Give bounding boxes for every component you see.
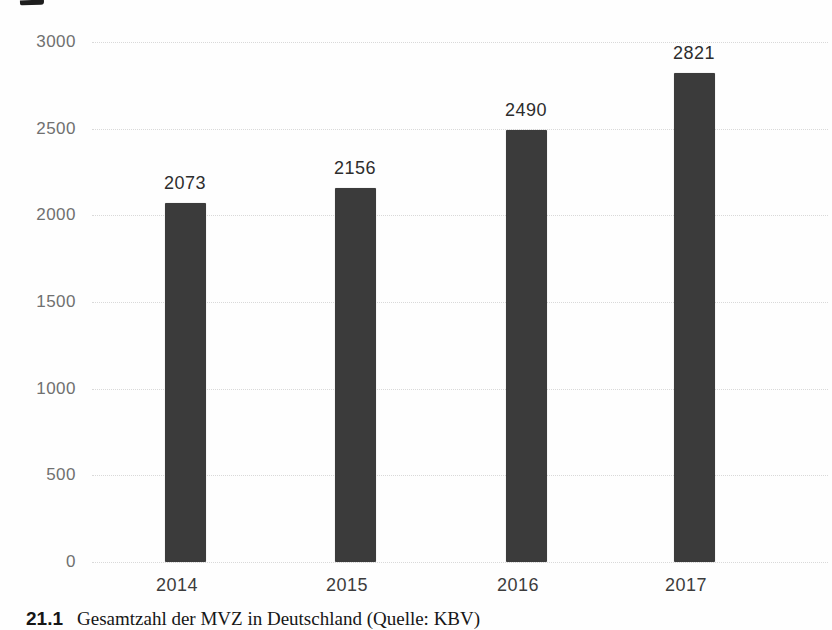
y-axis-tick-label: 2500: [24, 119, 76, 139]
figure-caption: 21.1Gesamtzahl der MVZ in Deutschland (Q…: [26, 608, 806, 630]
x-axis-label: 2017: [646, 575, 726, 596]
y-axis-tick-label: 500: [24, 465, 76, 485]
bar-value-label: 2073: [145, 173, 225, 194]
scanned-page: 0500100015002000250030002073201421562015…: [0, 0, 832, 630]
figure-caption-text: Gesamtzahl der MVZ in Deutschland (Quell…: [77, 608, 480, 629]
bar-chart: 0500100015002000250030002073201421562015…: [0, 0, 832, 600]
y-axis-tick-label: 3000: [24, 32, 76, 52]
bar-value-label: 2821: [654, 43, 734, 64]
bar-2017: [674, 73, 715, 562]
y-axis-tick-label: 2000: [24, 205, 76, 225]
y-axis-tick-label: 1000: [24, 379, 76, 399]
y-axis-tick-label: 0: [24, 552, 76, 572]
x-axis-label: 2016: [478, 575, 558, 596]
figure-caption-number: 21.1: [26, 608, 63, 629]
bar-2015: [335, 188, 376, 562]
y-axis-tick-label: 1500: [24, 292, 76, 312]
gridline-0: [92, 562, 828, 563]
x-axis-label: 2014: [137, 575, 217, 596]
bar-2014: [165, 203, 206, 562]
bar-value-label: 2490: [486, 100, 566, 121]
gridline-2500: [92, 129, 828, 130]
bar-value-label: 2156: [315, 158, 395, 179]
x-axis-label: 2015: [307, 575, 387, 596]
bar-2016: [506, 130, 547, 562]
